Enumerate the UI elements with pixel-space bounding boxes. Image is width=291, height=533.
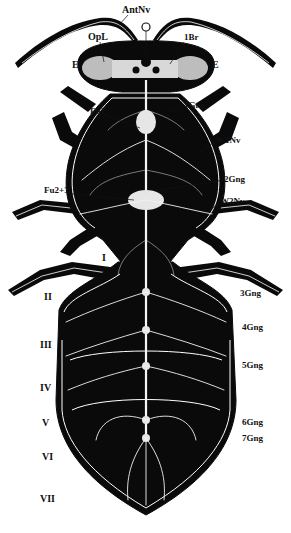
- label-furca-2-3: Fu2+3: [44, 185, 69, 195]
- label-ganglion-5: 5Gng: [242, 360, 264, 370]
- label-ganglion-1: 1Gng: [184, 100, 206, 110]
- segment-label-1: I: [102, 252, 106, 263]
- label-furca-1: Fu1: [90, 106, 106, 116]
- label-ganglion-3: 3Gng: [240, 288, 262, 298]
- label-ganglion-4: 4Gng: [242, 322, 264, 332]
- segment-label-4: IV: [40, 382, 52, 393]
- label-ganglion-7: 7Gng: [242, 433, 264, 443]
- label-antennal-nerve: AntNv: [122, 4, 150, 15]
- label-eye-right: E: [212, 59, 219, 70]
- label-eye-left: E: [72, 59, 79, 70]
- label-wing-nerve-2: W2Nv: [220, 196, 245, 206]
- label-ganglion-2: 2Gng: [224, 174, 246, 184]
- ocellus-marker: [142, 23, 150, 31]
- segment-label-6: VI: [42, 451, 53, 462]
- label-wing-nerve-1: W1Nv: [216, 135, 241, 145]
- segment-label-5: V: [42, 417, 50, 428]
- label-brain: 1Br: [184, 32, 199, 42]
- segment-label-7: VII: [40, 493, 55, 504]
- label-optic-lobe: OpL: [88, 31, 108, 42]
- segment-label-3: III: [40, 339, 52, 350]
- insect-nervous-system-diagram: AntNv OpL 1Br E E 1Gng Fu1 W1Nv 2Gng Fu2…: [0, 0, 291, 533]
- label-ganglion-6: 6Gng: [242, 417, 264, 427]
- ganglion-1: [136, 110, 156, 134]
- segment-label-2: II: [44, 291, 52, 302]
